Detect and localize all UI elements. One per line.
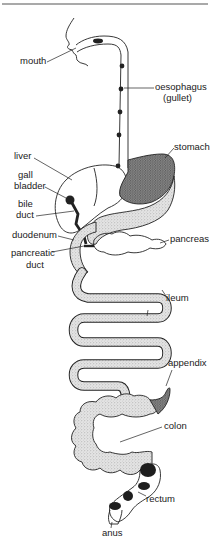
svg-text:ileum: ileum — [166, 292, 189, 303]
food-bolus — [118, 110, 123, 115]
anal-canal — [109, 510, 123, 524]
rectum-band — [123, 491, 133, 501]
digestive-system-diagram: mouth oesophagus (gullet) stomach liver … — [0, 0, 217, 550]
label-gall-bladder: gall bladder — [14, 169, 66, 198]
svg-text:appendix: appendix — [168, 357, 207, 368]
svg-text:mouth: mouth — [20, 55, 46, 66]
face-profile — [66, 18, 88, 66]
rectum-band — [109, 502, 121, 510]
svg-text:rectum: rectum — [146, 493, 175, 504]
svg-text:(gullet): (gullet) — [163, 92, 192, 103]
food-bolus-mouth — [93, 39, 103, 44]
label-colon: colon — [120, 420, 187, 442]
svg-text:colon: colon — [164, 420, 187, 431]
svg-text:liver: liver — [14, 150, 31, 161]
label-appendix: appendix — [166, 357, 207, 386]
label-rectum: rectum — [138, 492, 175, 504]
label-mouth: mouth — [20, 48, 76, 66]
label-stomach: stomach — [165, 141, 210, 158]
label-pancreas: pancreas — [160, 233, 209, 244]
rectum-band — [138, 482, 150, 490]
svg-text:bile: bile — [18, 198, 33, 209]
colon — [72, 394, 159, 475]
svg-text:stomach: stomach — [174, 141, 210, 152]
svg-text:duct: duct — [16, 209, 34, 220]
svg-text:duct: duct — [26, 259, 44, 270]
liver-lobe-line — [94, 168, 97, 206]
food-bolus — [120, 64, 125, 69]
svg-text:oesophagus: oesophagus — [155, 81, 207, 92]
food-bolus — [119, 87, 124, 92]
food-bolus — [117, 133, 122, 138]
svg-text:bladder: bladder — [14, 180, 46, 191]
svg-text:anus: anus — [102, 527, 123, 538]
svg-text:duodenum: duodenum — [12, 229, 57, 240]
oral-cavity-lower — [77, 44, 121, 55]
svg-text:pancreatic: pancreatic — [11, 247, 55, 258]
label-bile-duct: bile duct — [16, 198, 74, 220]
rectum-band — [140, 463, 156, 477]
svg-text:gall: gall — [18, 169, 33, 180]
svg-text:pancreas: pancreas — [170, 233, 209, 244]
label-oesophagus: oesophagus (gullet) — [124, 81, 207, 103]
